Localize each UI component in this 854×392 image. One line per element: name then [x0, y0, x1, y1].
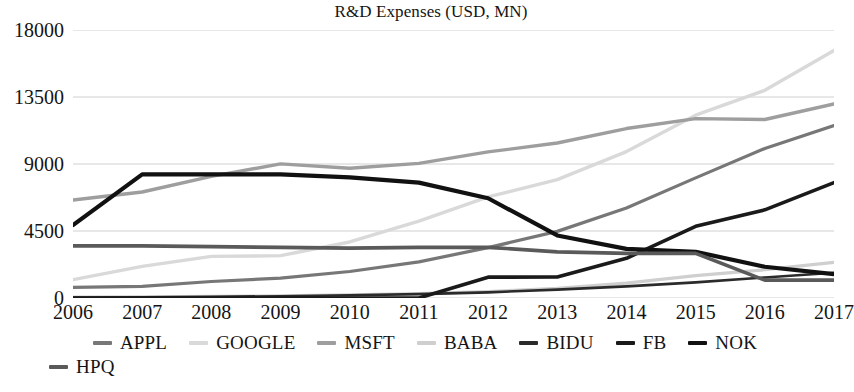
- y-axis: 0450090001350018000: [0, 30, 68, 298]
- legend-label: FB: [643, 332, 667, 354]
- series-line-bidu: [73, 273, 834, 298]
- legend-item-baba[interactable]: BABA: [417, 332, 498, 354]
- legend-swatch-icon: [688, 341, 707, 345]
- y-axis-tick-label: 18000: [14, 20, 64, 40]
- legend-item-fb[interactable]: FB: [616, 332, 667, 354]
- series-line-msft: [73, 104, 834, 200]
- x-axis-tick-label: 2012: [468, 300, 508, 324]
- x-axis-tick-label: 2016: [745, 300, 785, 324]
- legend-row-second: HPQ: [12, 356, 838, 378]
- legend-label: GOOGLE: [216, 332, 295, 354]
- legend-label: APPL: [120, 332, 167, 354]
- x-axis-tick-label: 2008: [191, 300, 231, 324]
- legend-label: NOK: [715, 332, 757, 354]
- legend-swatch-icon: [317, 341, 336, 345]
- legend-item-google[interactable]: GOOGLE: [189, 332, 295, 354]
- legend-swatch-icon: [49, 365, 68, 369]
- legend-swatch-icon: [417, 341, 436, 345]
- legend-label: BIDU: [546, 332, 593, 354]
- chart-title: R&D Expenses (USD, MN): [0, 2, 850, 22]
- y-axis-tick-label: 9000: [24, 154, 64, 174]
- x-axis-tick-label: 2010: [330, 300, 370, 324]
- x-axis-tick-label: 2011: [399, 300, 438, 324]
- legend-label: HPQ: [76, 356, 115, 378]
- x-axis-tick-label: 2007: [122, 300, 162, 324]
- x-axis-tick-label: 2017: [814, 300, 854, 324]
- x-axis-tick-label: 2009: [261, 300, 301, 324]
- legend-item-msft[interactable]: MSFT: [317, 332, 394, 354]
- legend-item-hpq[interactable]: HPQ: [49, 356, 115, 378]
- legend-item-nok[interactable]: NOK: [688, 332, 757, 354]
- legend-item-bidu[interactable]: BIDU: [519, 332, 593, 354]
- legend-swatch-icon: [519, 341, 538, 345]
- plot-area: [73, 30, 834, 298]
- x-axis-tick-label: 2014: [606, 300, 646, 324]
- y-axis-tick-label: 4500: [24, 221, 64, 241]
- legend-label: MSFT: [344, 332, 394, 354]
- x-axis-tick-label: 2006: [53, 300, 93, 324]
- x-axis-tick-label: 2015: [676, 300, 716, 324]
- legend-item-appl[interactable]: APPL: [93, 332, 167, 354]
- line-chart-svg: [73, 30, 834, 298]
- x-axis: 2006200720082009201020112012201320142015…: [73, 300, 834, 326]
- legend-label: BABA: [444, 332, 498, 354]
- legend-swatch-icon: [93, 341, 112, 345]
- legend-swatch-icon: [189, 341, 208, 345]
- chart-legend: APPLGOOGLEMSFTBABABIDUFBNOKHPQ: [0, 332, 850, 378]
- legend-swatch-icon: [616, 341, 635, 345]
- y-axis-tick-label: 13500: [14, 87, 64, 107]
- x-axis-tick-label: 2013: [537, 300, 577, 324]
